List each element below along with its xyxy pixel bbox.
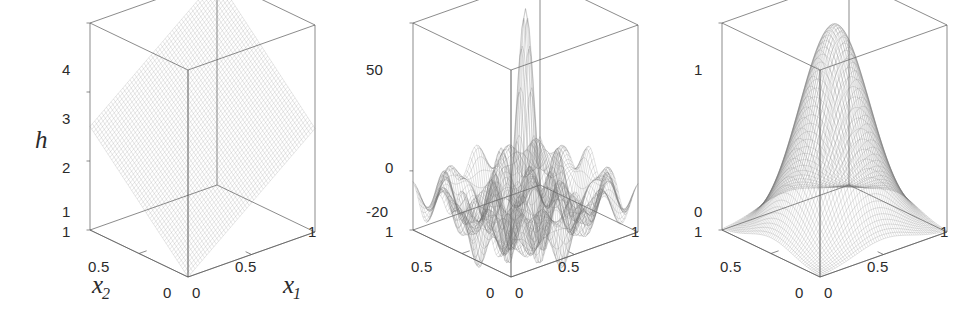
panel-1-x-tick-1: 1: [308, 224, 317, 239]
panel-1-x-axis-label: x1: [283, 272, 301, 302]
panel-3-y-tick-0.5: 0.5: [720, 259, 741, 274]
panel-1-x-axis-label-sub: 1: [293, 285, 301, 302]
panel-3-z-tick-0: 0: [694, 204, 703, 219]
panel-1-y-axis-label: x2: [92, 272, 110, 302]
panel-1-y-tick-0: 0: [163, 285, 172, 300]
panel-2-y-tick-0: 0: [486, 285, 495, 300]
panel-3-y-tick-1: 1: [694, 224, 703, 239]
panel-2-z-tick-0: 0: [385, 160, 394, 175]
surface-plot-panel-2: 50 0 -20 1 0.5 0 0 0.5 1: [330, 0, 652, 322]
panel-1-z-tick-1: 1: [62, 204, 71, 219]
surface-plot-2-canvas: [330, 0, 652, 322]
surface-plot-1-canvas: [0, 0, 330, 322]
panel-1-y-tick-1: 1: [62, 224, 71, 239]
panel-2-z-tick-50: 50: [366, 62, 383, 77]
panel-1-x-tick-0.5: 0.5: [235, 259, 256, 274]
surface-plot-panel-1: 4 3 2 1 h 1 0.5 0 x2 0 0.5 1 x1: [0, 0, 330, 322]
panel-2-x-tick-1: 1: [631, 224, 640, 239]
panel-1-x-tick-0: 0: [192, 285, 201, 300]
panel-1-z-tick-4: 4: [62, 62, 71, 77]
surface-plot-3-canvas: [652, 0, 974, 322]
panel-2-z-tick--20: -20: [366, 204, 388, 219]
panel-3-x-tick-0.5: 0.5: [867, 259, 888, 274]
panel-3-x-tick-1: 1: [940, 224, 949, 239]
panel-1-z-tick-3: 3: [62, 111, 71, 126]
panel-2-y-tick-1: 1: [385, 224, 394, 239]
panel-2-x-tick-0: 0: [515, 285, 524, 300]
three-surface-plot-figure: 4 3 2 1 h 1 0.5 0 x2 0 0.5 1 x1 50 0 -20…: [0, 0, 974, 322]
panel-2-x-tick-0.5: 0.5: [558, 259, 579, 274]
panel-1-z-tick-2: 2: [62, 160, 71, 175]
panel-2-y-tick-0.5: 0.5: [411, 259, 432, 274]
surface-plot-panel-3: 1 0 1 0.5 0 0 0.5 1: [652, 0, 974, 322]
panel-3-x-tick-0: 0: [824, 285, 833, 300]
panel-3-z-tick-1: 1: [694, 62, 703, 77]
panel-1-y-axis-label-sub: 2: [102, 285, 110, 302]
panel-1-z-axis-label: h: [35, 127, 48, 152]
panel-3-y-tick-0: 0: [795, 285, 804, 300]
